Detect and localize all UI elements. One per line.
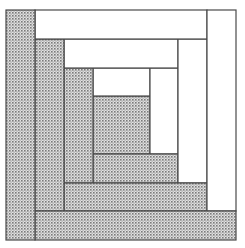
quilt-piece-r3-right (207, 10, 236, 211)
quilt-pieces (6, 10, 236, 240)
quilt-piece-r1-bottom (93, 154, 178, 183)
quilt-piece-center (93, 96, 150, 154)
quilt-piece-r1-right (150, 68, 178, 154)
quilt-piece-r2-bottom (64, 183, 207, 211)
quilt-piece-r3-top (35, 10, 207, 39)
quilt-piece-r3-bottom (35, 211, 236, 240)
quilt-piece-r2-left (35, 39, 64, 211)
quilt-piece-r1-left (64, 68, 93, 183)
quilt-piece-r2-right (178, 39, 207, 183)
log-cabin-quilt-diagram (0, 0, 245, 248)
quilt-piece-r3-left (6, 10, 35, 240)
quilt-piece-r1-top (93, 68, 150, 96)
quilt-piece-r2-top (64, 39, 178, 68)
